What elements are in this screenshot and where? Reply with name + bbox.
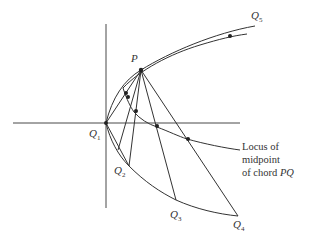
locus-diagram xyxy=(0,0,314,239)
point-Q1 xyxy=(104,121,108,125)
point-P xyxy=(139,68,143,72)
parabola-lower-branch xyxy=(106,123,238,216)
midpoint-4 xyxy=(155,124,159,128)
locus-upper xyxy=(123,34,247,88)
chord-Q1Q2 xyxy=(106,123,129,166)
locus-curve xyxy=(123,88,240,150)
label-Q1: Q1 xyxy=(89,128,100,142)
midpoint-2 xyxy=(126,95,130,99)
label-Q4: Q4 xyxy=(233,219,244,233)
chord-PQ3 xyxy=(141,70,176,200)
caption-line-3: of chord PQ xyxy=(242,166,294,179)
chord-PQ4 xyxy=(141,70,238,216)
midpoint-6 xyxy=(228,34,232,38)
midpoint-3 xyxy=(134,109,138,113)
label-Q2: Q2 xyxy=(114,165,125,179)
locus-caption: Locus of midpoint of chord PQ xyxy=(242,140,294,179)
parabola-curve xyxy=(106,26,255,123)
caption-line-1: Locus of xyxy=(242,140,294,153)
midpoint-5 xyxy=(186,137,190,141)
label-Q5: Q5 xyxy=(251,10,262,24)
label-P: P xyxy=(131,53,138,64)
chord-PQ2b xyxy=(129,70,141,166)
label-Q3: Q3 xyxy=(170,209,181,223)
caption-line-2: midpoint xyxy=(242,153,294,166)
midpoint-1 xyxy=(124,91,128,95)
